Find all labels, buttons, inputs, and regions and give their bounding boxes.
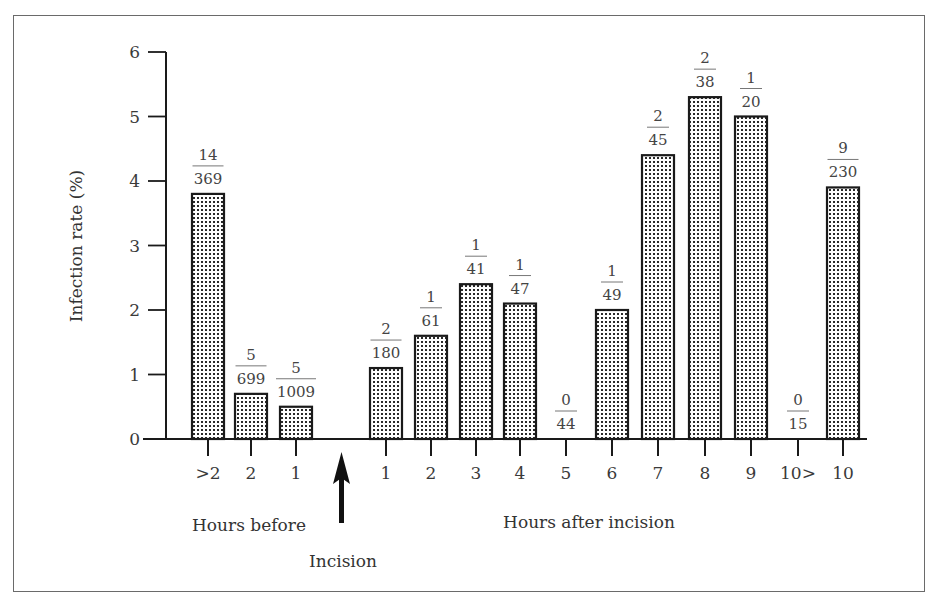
bar-group: 245 bbox=[642, 107, 674, 439]
bar bbox=[460, 284, 492, 439]
y-axis-title: Infection rate (%) bbox=[66, 170, 86, 322]
y-tick-label: 4 bbox=[129, 171, 140, 191]
bar-group: 2180 bbox=[370, 320, 402, 439]
fraction-numerator: 1 bbox=[746, 69, 756, 87]
x-tick-label: 2 bbox=[426, 463, 437, 483]
bar-group: 015 bbox=[787, 391, 809, 433]
incision-arrow-icon bbox=[333, 452, 350, 523]
x-tick-label: >2 bbox=[195, 463, 220, 483]
fraction-numerator: 9 bbox=[838, 139, 848, 157]
fraction-numerator: 1 bbox=[607, 262, 617, 280]
fraction-denominator: 47 bbox=[510, 280, 529, 298]
bar bbox=[504, 304, 536, 439]
x-tick-label: 5 bbox=[561, 463, 572, 483]
fraction-denominator: 180 bbox=[372, 344, 401, 362]
fraction-denominator: 44 bbox=[556, 415, 575, 433]
fraction-denominator: 38 bbox=[695, 73, 714, 91]
fraction-denominator: 699 bbox=[237, 370, 266, 388]
fraction-denominator: 230 bbox=[829, 163, 858, 181]
y-axis: 0123456 bbox=[129, 42, 166, 449]
fraction-numerator: 2 bbox=[700, 49, 710, 67]
bar bbox=[192, 194, 224, 439]
bar bbox=[596, 310, 628, 439]
x-tick-label: 3 bbox=[471, 463, 482, 483]
x-tick-label: 10> bbox=[780, 463, 816, 483]
fraction-numerator: 2 bbox=[653, 107, 663, 125]
x-axis: >22112345678910>10 bbox=[143, 439, 867, 483]
x-tick-label: 1 bbox=[291, 463, 302, 483]
fraction-numerator: 1 bbox=[426, 288, 436, 306]
bar bbox=[827, 187, 859, 439]
incision-label: Incision bbox=[309, 551, 377, 571]
x-tick-label: 6 bbox=[607, 463, 618, 483]
fraction-denominator: 49 bbox=[602, 286, 621, 304]
fraction-numerator: 2 bbox=[381, 320, 391, 338]
y-tick-label: 5 bbox=[129, 107, 140, 127]
hours-before-label: Hours before bbox=[192, 515, 306, 535]
bar-group: 141 bbox=[460, 236, 492, 439]
bar-group: 5699 bbox=[235, 346, 267, 439]
bar-group: 044 bbox=[555, 391, 577, 433]
fraction-numerator: 5 bbox=[246, 346, 256, 364]
x-tick-label: 4 bbox=[515, 463, 526, 483]
bar bbox=[235, 394, 267, 439]
bar-group: 161 bbox=[415, 288, 447, 439]
bar-group: 14369 bbox=[192, 146, 224, 439]
bar bbox=[415, 336, 447, 439]
x-tick-label: 10 bbox=[832, 463, 854, 483]
fraction-numerator: 14 bbox=[198, 146, 217, 164]
bar-group: 147 bbox=[504, 256, 536, 439]
y-tick-label: 3 bbox=[129, 236, 140, 256]
bar bbox=[280, 407, 312, 439]
fraction-denominator: 41 bbox=[466, 260, 485, 278]
fraction-denominator: 45 bbox=[648, 131, 667, 149]
y-tick-label: 0 bbox=[129, 429, 140, 449]
bar-group: 9230 bbox=[827, 139, 859, 439]
fraction-denominator: 15 bbox=[788, 415, 807, 433]
fraction-numerator: 0 bbox=[793, 391, 803, 409]
bar-group: 51009 bbox=[276, 359, 316, 439]
fraction-numerator: 5 bbox=[291, 359, 301, 377]
x-tick-label: 8 bbox=[700, 463, 711, 483]
bar-group: 120 bbox=[735, 69, 767, 440]
fraction-denominator: 1009 bbox=[277, 383, 315, 401]
fraction-denominator: 20 bbox=[741, 93, 760, 111]
bar bbox=[642, 155, 674, 439]
bar-group: 238 bbox=[689, 49, 721, 439]
bar-group: 149 bbox=[596, 262, 628, 439]
bar bbox=[735, 117, 767, 440]
fraction-numerator: 1 bbox=[515, 256, 525, 274]
bars: 1436956995100921801611411470441492452381… bbox=[192, 49, 859, 439]
hours-after-label: Hours after incision bbox=[503, 512, 675, 532]
bar bbox=[689, 97, 721, 439]
bar bbox=[370, 368, 402, 439]
x-tick-label: 9 bbox=[746, 463, 757, 483]
x-tick-label: 7 bbox=[653, 463, 664, 483]
infection-rate-bar-chart: Infection rate (%) 0123456 1436956995100… bbox=[0, 0, 937, 613]
y-tick-label: 6 bbox=[129, 42, 140, 62]
y-tick-label: 2 bbox=[129, 300, 140, 320]
fraction-numerator: 0 bbox=[561, 391, 571, 409]
fraction-numerator: 1 bbox=[471, 236, 481, 254]
fraction-denominator: 61 bbox=[421, 312, 440, 330]
fraction-denominator: 369 bbox=[194, 170, 223, 188]
y-tick-label: 1 bbox=[129, 365, 140, 385]
x-tick-label: 2 bbox=[246, 463, 257, 483]
x-tick-label: 1 bbox=[381, 463, 392, 483]
